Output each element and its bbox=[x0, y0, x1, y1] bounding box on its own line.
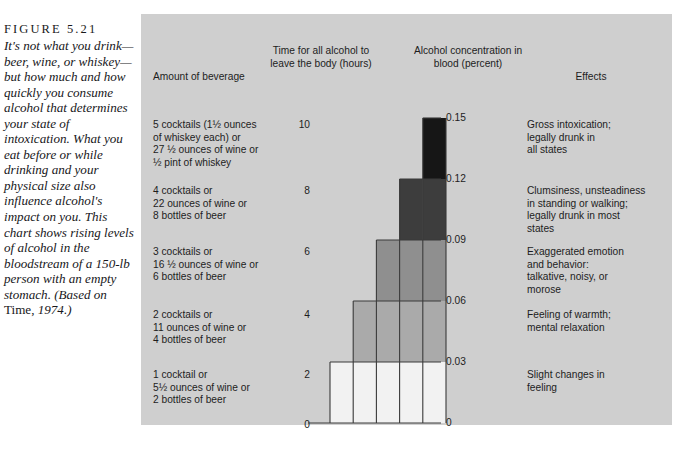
bar-5-band-1 bbox=[423, 362, 446, 423]
figure-caption-block: FIGURE 5.21 It's not what you drink—beer… bbox=[4, 22, 136, 318]
column-header-time: Time for all alcohol to leave the body (… bbox=[261, 45, 381, 70]
column-header-beverage: Amount of beverage bbox=[153, 71, 283, 84]
bar-5-band-5 bbox=[423, 118, 446, 179]
row-beverage-3: 3 cocktails or 16 ½ ounces of wine or 6 … bbox=[153, 246, 278, 284]
bar-4-band-2 bbox=[400, 301, 423, 362]
bar-4-band-3 bbox=[400, 240, 423, 301]
row-effects-2: Clumsiness, unsteadiness in standing or … bbox=[527, 185, 672, 235]
row-hours-1: 10 bbox=[284, 119, 310, 132]
row-beverage-2: 4 cocktails or 22 ounces of wine or 8 bo… bbox=[153, 185, 278, 223]
figure-caption-text: It's not what you drink—beer, wine, or w… bbox=[4, 38, 136, 318]
concentration-label-0.12: 0.12 bbox=[446, 173, 486, 184]
concentration-label-0.15: 0.15 bbox=[446, 112, 486, 123]
row-effects-1: Gross intoxication; legally drunk in all… bbox=[527, 119, 672, 157]
column-header-effects: Effects bbox=[531, 71, 651, 84]
bar-3-band-1 bbox=[376, 362, 399, 423]
row-beverage-5: 1 cocktail or 5½ ounces of wine or 2 bot… bbox=[153, 369, 278, 407]
concentration-label-0.03: 0.03 bbox=[446, 356, 486, 367]
bar-2-band-2 bbox=[353, 301, 376, 362]
bar-5-band-3 bbox=[423, 240, 446, 301]
column-header-concentration: Alcohol concentration in blood (percent) bbox=[403, 45, 533, 70]
row-hours-3: 6 bbox=[284, 246, 310, 259]
bar-2-band-1 bbox=[353, 362, 376, 423]
bar-4-band-1 bbox=[400, 362, 423, 423]
bar-3-band-2 bbox=[376, 301, 399, 362]
hours-axis-zero: 0 bbox=[284, 419, 310, 432]
row-effects-5: Slight changes in feeling bbox=[527, 369, 672, 394]
bar-1-band-1 bbox=[330, 362, 353, 423]
row-hours-2: 8 bbox=[284, 185, 310, 198]
figure-panel: Amount of beverage Time for all alcohol … bbox=[141, 14, 672, 425]
figure-number: FIGURE 5.21 bbox=[4, 22, 136, 37]
bar-3-band-3 bbox=[376, 240, 399, 301]
concentration-label-0.06: 0.06 bbox=[446, 295, 486, 306]
concentration-label-0: 0 bbox=[446, 417, 486, 428]
row-hours-5: 2 bbox=[284, 369, 310, 382]
bar-5-band-4 bbox=[423, 179, 446, 240]
row-effects-3: Exaggerated emotion and behavior: talkat… bbox=[527, 246, 672, 296]
concentration-label-0.09: 0.09 bbox=[446, 234, 486, 245]
row-beverage-1: 5 cocktails (1½ ounces of whiskey each) … bbox=[153, 119, 278, 169]
row-hours-4: 4 bbox=[284, 309, 310, 322]
row-beverage-4: 2 cocktails or 11 ounces of wine or 4 bo… bbox=[153, 309, 278, 347]
row-effects-4: Feeling of warmth; mental relaxation bbox=[527, 309, 672, 334]
bar-5-band-2 bbox=[423, 301, 446, 362]
bar-4-band-4 bbox=[400, 179, 423, 240]
